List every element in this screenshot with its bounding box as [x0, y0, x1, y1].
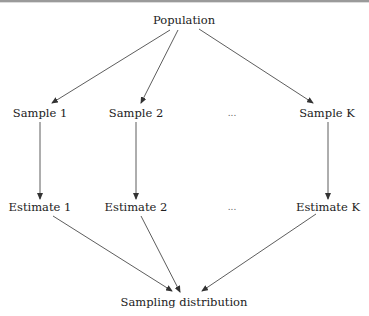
edge-estimate-1-sampling: [53, 216, 172, 291]
edges-layer: [0, 0, 369, 316]
edge-population-sample-k: [199, 29, 313, 103]
sampling-distribution-diagram: Population Sample 1 Sample 2 ... Sample …: [0, 0, 369, 316]
node-estimate-ellipsis: ...: [228, 200, 237, 214]
edge-population-sample-1: [52, 30, 170, 103]
node-sample-ellipsis: ...: [228, 106, 237, 120]
node-estimate-1: Estimate 1: [9, 200, 72, 214]
edge-estimate-k-sampling: [202, 214, 316, 291]
node-estimate-k: Estimate K: [296, 200, 360, 214]
node-sample-k: Sample K: [299, 106, 355, 120]
node-sample-2: Sample 2: [109, 106, 163, 120]
node-sample-1: Sample 1: [13, 106, 67, 120]
edge-population-sample-2: [141, 30, 178, 103]
node-sampling-distribution: Sampling distribution: [121, 295, 248, 309]
edge-estimate-2-sampling: [141, 216, 180, 292]
node-population: Population: [153, 13, 215, 27]
node-estimate-2: Estimate 2: [105, 200, 168, 214]
